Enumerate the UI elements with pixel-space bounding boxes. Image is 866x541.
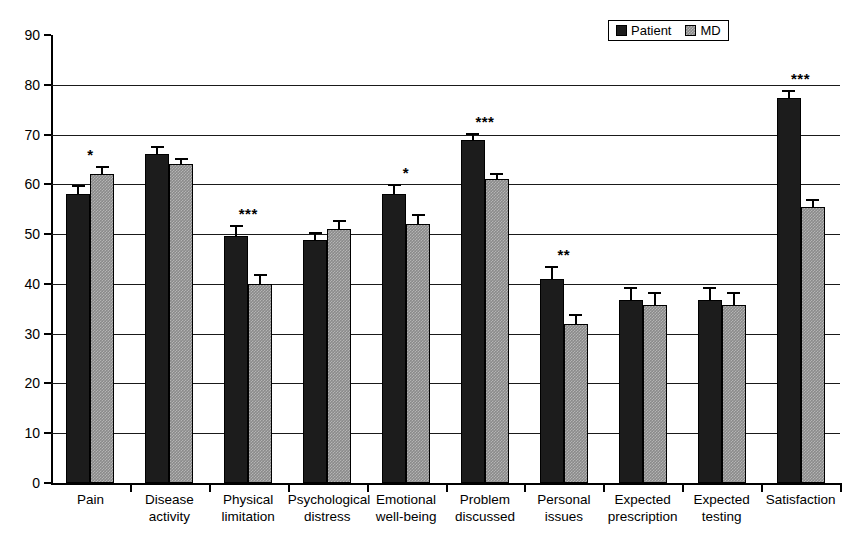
x-axis: PainDisease activityPhysical limitationP… (51, 492, 840, 541)
bar-patient (777, 98, 801, 483)
bar-md (485, 179, 509, 483)
error-bar-cap (569, 314, 582, 316)
y-axis-tick (44, 84, 51, 86)
error-bar-cap (806, 199, 819, 201)
y-axis-tick (44, 233, 51, 235)
significance-marker: * (51, 147, 130, 162)
gridline (51, 85, 840, 86)
x-axis-label: Psychological distress (288, 492, 367, 526)
bar-md (248, 284, 272, 483)
error-bar-cap (230, 225, 243, 227)
error-bar-cap (648, 292, 661, 294)
significance-marker: ** (524, 247, 603, 262)
x-axis-tick (682, 483, 684, 492)
y-axis-tick-label: 50 (10, 227, 40, 241)
y-axis-tick-label: 20 (10, 376, 40, 390)
legend-label-patient: Patient (631, 24, 671, 37)
y-axis-tick (44, 183, 51, 185)
y-axis-tick (44, 382, 51, 384)
bar-md (327, 229, 351, 483)
gridline (51, 135, 840, 136)
legend-entry-patient: Patient (616, 24, 671, 37)
error-bar-cap (333, 220, 346, 222)
x-axis-label: Satisfaction (761, 492, 840, 509)
x-axis-label: Expected prescription (603, 492, 682, 526)
x-axis-label: Physical limitation (209, 492, 288, 526)
x-axis-tick (840, 483, 842, 492)
x-axis-label: Problem discussed (446, 492, 525, 526)
x-axis-tick (288, 483, 290, 492)
x-axis-tick (367, 483, 369, 492)
x-axis-tick (130, 483, 132, 492)
error-bar-cap (703, 287, 716, 289)
bar-patient (66, 194, 90, 483)
x-axis-tick (524, 483, 526, 492)
y-axis: 0102030405060708090 (0, 35, 40, 483)
significance-marker: *** (761, 71, 840, 86)
y-axis-tick-label: 40 (10, 277, 40, 291)
error-bar-cap (545, 266, 558, 268)
error-bar-cap (175, 158, 188, 160)
y-axis-tick-label: 70 (10, 128, 40, 142)
error-bar-cap (151, 146, 164, 148)
x-axis-label: Personal issues (524, 492, 603, 526)
y-axis-tick-label: 30 (10, 327, 40, 341)
legend-entry-md: MD (685, 24, 720, 37)
x-axis-tick (761, 483, 763, 492)
y-axis-tick (44, 34, 51, 36)
y-axis-tick (44, 134, 51, 136)
bar-md (643, 305, 667, 483)
bar-md (406, 224, 430, 483)
x-axis-label: Emotional well-being (367, 492, 446, 526)
error-bar-cap (727, 292, 740, 294)
error-bar-cap (466, 133, 479, 135)
bar-patient (145, 154, 169, 483)
bar-md (801, 207, 825, 483)
error-bar-cap (490, 173, 503, 175)
y-axis-line (51, 35, 53, 483)
legend-label-md: MD (700, 24, 720, 37)
x-axis-label: Pain (51, 492, 130, 509)
error-bar-cap (72, 185, 85, 187)
y-axis-tick (44, 432, 51, 434)
error-bar-cap (412, 214, 425, 216)
y-axis-tick-label: 0 (10, 476, 40, 490)
bar-patient (224, 236, 248, 483)
bar-patient (540, 279, 564, 483)
y-axis-tick-label: 60 (10, 177, 40, 191)
chart-legend: Patient MD (608, 20, 729, 41)
y-axis-tick-label: 10 (10, 426, 40, 440)
plot-area: ************* (51, 35, 840, 483)
bar-md (722, 305, 746, 483)
patient-swatch-icon (616, 25, 627, 36)
x-axis-tick (603, 483, 605, 492)
x-axis-tick (209, 483, 211, 492)
bar-md (564, 324, 588, 483)
bar-chart-figure: 0102030405060708090 ************* PainDi… (0, 0, 866, 541)
x-axis-label: Expected testing (682, 492, 761, 526)
error-bar-cap (96, 166, 109, 168)
significance-marker: *** (209, 206, 288, 221)
y-axis-tick (44, 482, 51, 484)
y-axis-tick (44, 333, 51, 335)
error-bar-cap (624, 287, 637, 289)
error-bar-cap (309, 232, 322, 234)
error-bar-cap (388, 184, 401, 186)
y-axis-tick (44, 283, 51, 285)
bar-md (90, 174, 114, 483)
bar-md (169, 164, 193, 483)
bar-patient (382, 194, 406, 483)
bar-patient (303, 240, 327, 483)
significance-marker: *** (446, 114, 525, 129)
bar-patient (698, 300, 722, 483)
x-axis-tick (446, 483, 448, 492)
md-swatch-icon (685, 25, 696, 36)
bar-patient (619, 300, 643, 483)
significance-marker: * (367, 165, 446, 180)
y-axis-tick-label: 90 (10, 28, 40, 42)
error-bar-cap (782, 90, 795, 92)
bar-patient (461, 140, 485, 483)
y-axis-tick-label: 80 (10, 78, 40, 92)
error-bar-cap (254, 274, 267, 276)
x-axis-label: Disease activity (130, 492, 209, 526)
